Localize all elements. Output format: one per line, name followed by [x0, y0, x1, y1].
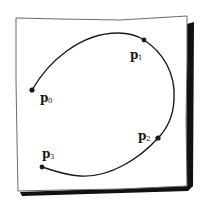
point-p1-subscript: 1	[138, 54, 142, 62]
point-p3-marker	[40, 165, 45, 170]
point-p2-marker	[155, 135, 160, 140]
point-p0-subscript: 0	[48, 97, 52, 105]
point-p0-marker	[29, 87, 34, 92]
point-p3-subscript: 3	[50, 153, 54, 161]
point-p2-subscript: 2	[146, 135, 150, 143]
point-p1-marker	[142, 38, 147, 43]
diagram-canvas: p 0 p 1 p 2 p 3	[0, 0, 201, 198]
